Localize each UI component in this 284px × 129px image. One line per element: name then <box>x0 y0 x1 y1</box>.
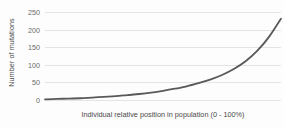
mutation-growth-chart: Number of mutations 250200150100500 Indi… <box>0 0 284 129</box>
y-tick-label: 50 <box>18 78 40 87</box>
y-tick-label: 0 <box>18 96 40 105</box>
mutations-line-path <box>45 19 281 100</box>
y-axis-title: Number of mutations <box>4 0 18 104</box>
gridline <box>45 100 281 101</box>
plot-area <box>45 12 281 100</box>
y-tick-label: 150 <box>18 43 40 52</box>
y-tick-label: 100 <box>18 60 40 69</box>
y-axis-title-text: Number of mutations <box>7 18 16 87</box>
y-tick-label: 250 <box>18 8 40 17</box>
y-axis-tick-labels: 250200150100500 <box>18 8 40 100</box>
y-tick-label: 200 <box>18 25 40 34</box>
x-axis-title: Individual relative position in populati… <box>45 110 281 119</box>
series-curve <box>45 12 281 100</box>
